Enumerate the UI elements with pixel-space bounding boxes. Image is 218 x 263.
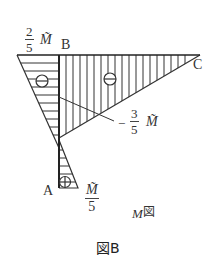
label-middle-symbol: M̃: [146, 114, 158, 130]
label-bottom-fraction: M̃ 5: [85, 183, 99, 214]
label-left-top-symbol: M̃: [40, 32, 52, 48]
diagram-title-M: M: [132, 206, 143, 222]
minus-sign-right-icon: [104, 73, 116, 85]
point-B-label: B: [61, 38, 70, 52]
diagram-title-suffix: 図: [143, 206, 155, 218]
minus-sign-left-icon: [36, 75, 48, 87]
label-middle-sign: −: [118, 117, 125, 130]
label-left-top-fraction: 2 5: [25, 25, 34, 54]
left-moment-area: [10, 63, 60, 135]
label-middle-fraction: 3 5: [130, 107, 139, 136]
right-moment-area: [66, 50, 185, 140]
figure-caption: 図B: [96, 237, 120, 257]
point-A-label: A: [43, 184, 53, 198]
point-C-label: C: [193, 58, 202, 72]
plus-sign-bottom-icon: [60, 177, 71, 188]
